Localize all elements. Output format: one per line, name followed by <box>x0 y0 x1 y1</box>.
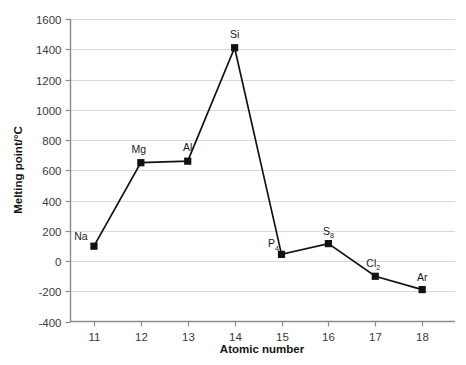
x-axis-tick-label: 14 <box>229 331 242 343</box>
data-point-marker-group <box>90 44 425 293</box>
data-point-marker <box>231 44 238 51</box>
x-axis-tick-label: 13 <box>182 331 195 343</box>
data-point-label: Mg <box>132 143 147 155</box>
y-axis-tick-label: 400 <box>42 196 61 208</box>
data-point-label: Na <box>74 230 88 242</box>
gridline-group <box>71 20 456 292</box>
data-point-label: Si <box>230 28 239 40</box>
y-axis-tick-label: 200 <box>42 226 61 238</box>
data-point-marker <box>90 243 97 250</box>
y-axis-tick-label: 0 <box>55 256 61 268</box>
data-point-label: Ar <box>417 271 428 283</box>
x-axis-tick-label: 18 <box>416 331 429 343</box>
y-axis-tick-label-group: 16001400120010008006004002000-200-400 <box>36 14 62 329</box>
data-point-label: Cl2 <box>366 257 380 272</box>
y-axis-tick-label: -400 <box>38 317 61 329</box>
melting-point-chart: 16001400120010008006004002000-200-400 11… <box>0 0 466 365</box>
data-point-marker <box>137 159 144 166</box>
x-axis-title: Atomic number <box>220 343 305 355</box>
x-axis-tick-label: 17 <box>369 331 382 343</box>
x-axis-tick-label: 11 <box>89 331 101 343</box>
data-point-label: S8 <box>323 225 334 240</box>
y-axis-tick-label: 800 <box>42 135 61 147</box>
x-axis-tick-label-group: 1112131415161718 <box>89 331 429 343</box>
x-axis-tick-label: 16 <box>322 331 335 343</box>
data-point-label-group: NaMgAlSiP4S8Cl2Ar <box>74 28 428 283</box>
y-axis-tick-label: 1000 <box>36 105 62 117</box>
chart-canvas: 16001400120010008006004002000-200-400 11… <box>0 0 466 365</box>
data-point-label: Al <box>183 141 192 153</box>
scan-artifact-strip <box>0 0 466 9</box>
x-axis-tick-label: 15 <box>276 331 289 343</box>
y-axis-tick-label: -200 <box>38 286 61 298</box>
data-point-marker <box>325 240 332 247</box>
data-point-marker <box>372 273 379 280</box>
y-axis-tick-label: 1600 <box>36 14 62 26</box>
x-axis-tick-label: 12 <box>135 331 148 343</box>
y-axis-tick-label: 600 <box>42 165 61 177</box>
y-axis-tick-group <box>66 20 71 323</box>
y-axis-tick-label: 1200 <box>36 75 62 87</box>
data-point-marker <box>184 158 191 165</box>
y-axis-title: Melting point/°C <box>12 126 24 214</box>
melting-point-series-line <box>94 48 422 290</box>
y-axis-tick-label: 1400 <box>36 44 62 56</box>
data-point-marker <box>419 286 426 293</box>
